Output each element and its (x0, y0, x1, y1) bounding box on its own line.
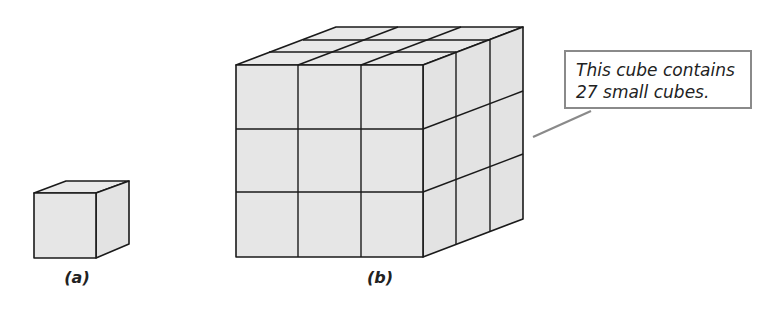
panel-label-a: (a) (64, 268, 89, 287)
panel-label-b: (b) (367, 268, 393, 287)
callout-leader-line (533, 111, 591, 137)
callout-box: This cube contains 27 small cubes. (564, 50, 752, 109)
large-cube-front-face (236, 65, 423, 257)
large-cube-side-face (423, 27, 523, 257)
large-cube (236, 27, 523, 257)
small-cube (34, 181, 129, 258)
diagram-canvas (0, 0, 782, 309)
callout-line-2: 27 small cubes. (576, 81, 740, 103)
callout-line-1: This cube contains (576, 59, 740, 81)
small-cube-side-face (96, 181, 129, 258)
small-cube-front-face (34, 193, 96, 258)
